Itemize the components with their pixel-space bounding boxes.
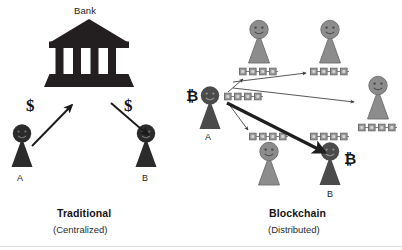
arrow-a-to-bank (32, 105, 72, 146)
dollar-sign-right: $ (124, 97, 133, 114)
figure-a-traditional (12, 124, 33, 167)
bank-building-icon (44, 19, 134, 87)
bitcoin-sign-a: ₿ (186, 88, 198, 103)
label-person-b-traditional: B (142, 174, 148, 183)
ledger-a (225, 93, 264, 100)
bitcoin-sign-b: ₿ (344, 151, 356, 166)
figure-b-blockchain (320, 142, 341, 185)
caption-blockchain-title: Blockchain (269, 208, 326, 219)
broadcast-arrows (228, 73, 354, 130)
figure-b-traditional (136, 124, 157, 167)
figure-a-blockchain (200, 86, 221, 129)
blockchain-vs-traditional-diagram: Bank $ $ A B ₿ ₿ A B Traditional (Centra… (0, 0, 402, 250)
page-divider (0, 246, 402, 247)
caption-traditional-title: Traditional (57, 208, 111, 219)
peer-node-top-right (320, 20, 341, 63)
peer-node-right (368, 76, 389, 119)
ledger-right (359, 124, 398, 131)
dollar-sign-left: $ (26, 97, 35, 114)
caption-traditional-subtitle: (Centralized) (53, 225, 107, 235)
caption-blockchain-subtitle: (Distributed) (268, 225, 320, 235)
ledger-top-left (240, 68, 279, 75)
peer-node-bottom-left (259, 142, 280, 185)
label-person-a-traditional: A (17, 174, 23, 183)
ledger-top-right (311, 68, 350, 75)
label-person-b-blockchain: B (327, 190, 333, 199)
bank-label: Bank (74, 6, 96, 16)
ledger-bottom-left (250, 133, 289, 140)
peer-node-top-left (249, 20, 270, 63)
label-person-a-blockchain: A (205, 133, 211, 142)
ledger-b (311, 133, 350, 140)
